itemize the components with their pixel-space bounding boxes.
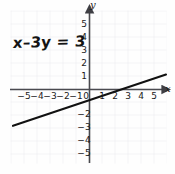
x-tick-label: 3 — [125, 91, 131, 101]
coordinate-plane: −5 −4 −3 −2 −1 0 1 2 3 4 5 5 4 3 2 1 −2 … — [0, 0, 175, 174]
y-tick-label: −2 — [77, 109, 90, 119]
y-tick-label: −4 — [77, 135, 91, 145]
x-axis-label: x — [165, 83, 171, 94]
x-tick-label: 5 — [151, 91, 157, 101]
y-tick-label: 5 — [81, 19, 87, 29]
x-tick-label: 2 — [112, 91, 118, 101]
y-axis-label: y — [90, 0, 96, 10]
y-tick-label: 1 — [81, 71, 87, 81]
x-tick-label: −4 — [30, 91, 44, 101]
x-tick-label: 4 — [138, 91, 144, 101]
graph-figure: −5 −4 −3 −2 −1 0 1 2 3 4 5 5 4 3 2 1 −2 … — [0, 0, 175, 174]
x-tick-label: −2 — [56, 91, 69, 101]
x-tick-label: −5 — [17, 91, 30, 101]
equation-annotation: x–3y = 3 — [12, 32, 86, 52]
x-tick-label: 1 — [99, 91, 105, 101]
x-tick-label: −1 — [69, 91, 82, 101]
y-tick-label: −3 — [77, 122, 90, 132]
origin-label: 0 — [83, 91, 89, 101]
x-tick-label: −3 — [43, 91, 56, 101]
y-tick-label: −5 — [77, 148, 90, 158]
y-tick-label: 2 — [81, 58, 87, 68]
